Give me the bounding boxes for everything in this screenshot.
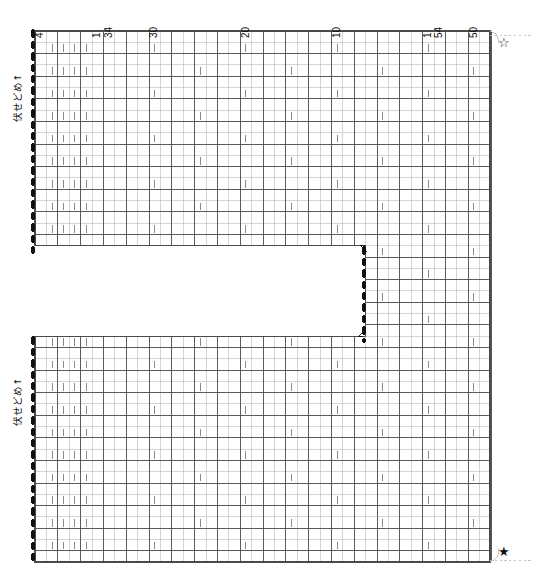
bind-off-label: 伏せどめ↑ bbox=[13, 74, 23, 122]
column-number-label: 54 bbox=[434, 27, 444, 38]
column-number-label: 4 bbox=[35, 32, 45, 38]
column-number-label: 50 bbox=[469, 27, 479, 38]
column-number-label: 10 bbox=[332, 27, 342, 38]
column-number-label: 34 bbox=[104, 27, 114, 38]
column-number-label: 30 bbox=[149, 27, 159, 38]
column-number-label: 1 bbox=[92, 32, 102, 38]
chart-grid-canvas bbox=[0, 0, 533, 585]
filled-star-marker: ★ bbox=[498, 545, 510, 558]
bind-off-label: 伏せどめ↑ bbox=[13, 378, 23, 426]
hollow-star-marker: ☆ bbox=[498, 36, 510, 49]
knitting-chart: 41343020101545043 伏せどめ↑伏せどめ↑ ☆★ bbox=[0, 0, 533, 585]
column-number-label: 20 bbox=[241, 27, 251, 38]
column-number-label: 1 bbox=[423, 32, 433, 38]
